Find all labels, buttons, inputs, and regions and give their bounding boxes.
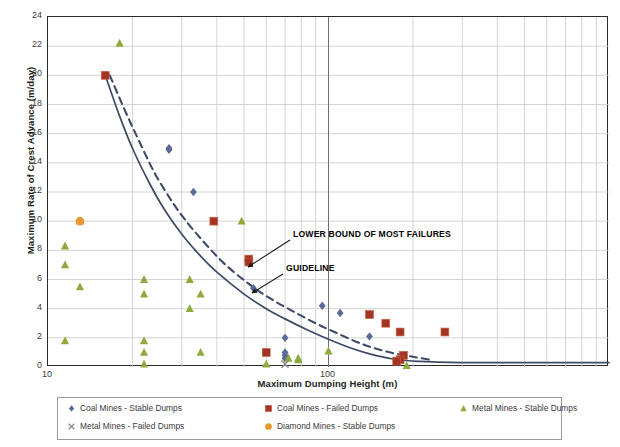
legend-item-label: Metal Mines - Failed Dumps	[80, 421, 184, 432]
y-tick-label: 22	[16, 40, 42, 49]
annotation-lower-bound: LOWER BOUND OF MOST FAILURES	[293, 229, 451, 239]
data-point	[76, 217, 85, 226]
data-point	[294, 355, 302, 363]
y-tick-label: 10	[16, 215, 42, 224]
data-point	[396, 328, 404, 336]
y-tick-label: 8	[16, 244, 42, 253]
legend-item-label: Metal Mines - Stable Dumps	[472, 403, 577, 414]
data-point	[116, 39, 124, 47]
y-tick-label: 12	[16, 186, 42, 195]
cross-marker-icon	[66, 421, 77, 432]
curve-lower-bound-of-most-failures	[110, 75, 430, 359]
data-layer	[48, 17, 609, 367]
x-axis-title: Maximum Dumping Height (m)	[47, 378, 608, 389]
legend-item[interactable]: Diamond Mines - Stable Dumps	[263, 421, 395, 432]
triangle-marker-icon	[458, 403, 469, 414]
circle-marker-icon	[263, 421, 274, 432]
data-point	[238, 217, 246, 225]
data-point	[245, 258, 253, 266]
y-tick-label: 6	[16, 274, 42, 283]
data-point	[210, 217, 218, 225]
legend-item-label: Diamond Mines - Stable Dumps	[277, 421, 395, 432]
series-coal-mines-failed-dumps	[101, 71, 448, 365]
diamond-marker-icon	[66, 403, 77, 414]
data-point	[186, 304, 194, 312]
legend-item[interactable]: Metal Mines - Failed Dumps	[66, 421, 184, 432]
data-point	[324, 347, 332, 355]
legend-item-label: Coal Mines - Failed Dumps	[277, 403, 378, 414]
data-point	[282, 334, 289, 342]
y-axis-ticks: 024681012141618202224	[12, 0, 42, 447]
legend-item[interactable]: Coal Mines - Stable Dumps	[66, 403, 182, 414]
data-point	[319, 302, 326, 310]
plot-area	[47, 16, 608, 366]
data-point	[140, 290, 148, 298]
data-point	[393, 357, 401, 365]
data-point	[166, 146, 173, 154]
data-point	[262, 360, 270, 368]
data-point	[61, 242, 69, 250]
square-marker-icon	[263, 403, 274, 414]
series-diamond-mines-stable-dumps	[76, 217, 85, 226]
data-point	[61, 336, 69, 344]
data-point	[140, 336, 148, 344]
series-metal-mines-stable-dumps	[61, 39, 411, 369]
y-tick-label: 16	[16, 128, 42, 137]
y-tick-label: 24	[16, 11, 42, 20]
chart-figure: Maximum Rate of Crest Advance (m/day) 02…	[0, 0, 620, 447]
data-point	[140, 348, 148, 356]
y-tick-label: 4	[16, 303, 42, 312]
data-point	[61, 261, 69, 269]
annotation-guideline: GUIDELINE	[286, 263, 335, 273]
data-point	[140, 360, 148, 368]
data-point	[140, 275, 148, 283]
y-tick-label: 0	[16, 361, 42, 370]
y-tick-label: 14	[16, 157, 42, 166]
y-tick-label: 2	[16, 332, 42, 341]
y-tick-label: 20	[16, 69, 42, 78]
data-point	[337, 309, 344, 317]
chart-legend: Coal Mines - Stable DumpsCoal Mines - Fa…	[57, 397, 562, 440]
data-point	[441, 328, 449, 336]
data-point	[366, 311, 374, 319]
data-point	[366, 332, 373, 340]
data-point	[382, 319, 390, 327]
data-point	[197, 290, 205, 298]
data-point	[262, 349, 270, 357]
data-point	[101, 71, 109, 79]
data-point	[76, 282, 84, 290]
y-tick-label: 18	[16, 99, 42, 108]
data-point	[186, 275, 194, 283]
legend-item-label: Coal Mines - Stable Dumps	[80, 403, 182, 414]
curve-guideline	[105, 75, 609, 362]
data-point	[197, 348, 205, 356]
legend-item[interactable]: Metal Mines - Stable Dumps	[458, 403, 577, 414]
legend-item[interactable]: Coal Mines - Failed Dumps	[263, 403, 378, 414]
series-coal-mines-stable-dumps	[166, 144, 373, 362]
data-point	[190, 188, 197, 196]
